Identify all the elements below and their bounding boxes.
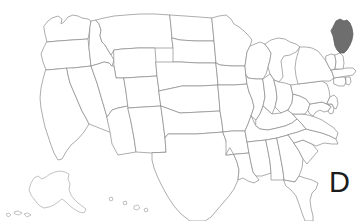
state-iowa[interactable] <box>216 63 247 85</box>
state-connecticut[interactable] <box>334 77 346 86</box>
state-washington[interactable] <box>44 15 91 42</box>
state-hawaii[interactable] <box>109 197 148 212</box>
state-oregon[interactable] <box>41 39 91 70</box>
state-north-dakota[interactable] <box>170 15 214 41</box>
state-south-dakota[interactable] <box>172 38 216 63</box>
state-colorado[interactable] <box>124 76 161 108</box>
alaska-aleutians <box>6 211 31 217</box>
us-map-svg <box>0 0 357 221</box>
state-wisconsin[interactable] <box>245 42 271 79</box>
state-wyoming[interactable] <box>114 48 157 78</box>
us-map-figure: D <box>0 0 357 221</box>
state-new-hampshire[interactable] <box>335 53 344 69</box>
state-alaska[interactable] <box>29 171 86 213</box>
state-maine-highlighted[interactable] <box>331 19 353 53</box>
state-rhode-island[interactable] <box>346 77 351 85</box>
option-letter-label: D <box>329 168 350 197</box>
state-arkansas[interactable] <box>223 131 249 155</box>
state-florida[interactable] <box>284 176 318 221</box>
state-massachusetts[interactable] <box>331 68 356 78</box>
